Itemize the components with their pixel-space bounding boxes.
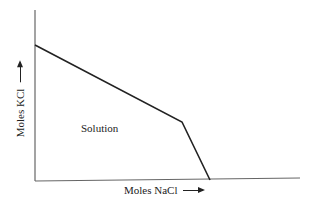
right-arrow-icon — [183, 190, 203, 191]
up-arrow-icon — [20, 63, 21, 83]
phase-diagram — [0, 0, 311, 209]
y-axis-label: Moles KCl — [14, 63, 26, 138]
x-axis-label-text: Moles NaCl — [124, 184, 177, 196]
x-axis — [35, 178, 300, 181]
x-axis-label: Moles NaCl — [124, 184, 203, 196]
solubility-curve — [35, 45, 210, 180]
y-axis-label-text: Moles KCl — [14, 89, 26, 138]
region-label-solution: Solution — [81, 122, 118, 134]
